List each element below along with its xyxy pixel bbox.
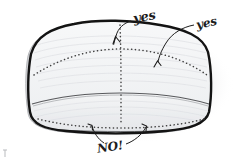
- stray-pencil-mark: [3, 150, 7, 157]
- illustration-canvas: yes yes NO!: [0, 0, 243, 161]
